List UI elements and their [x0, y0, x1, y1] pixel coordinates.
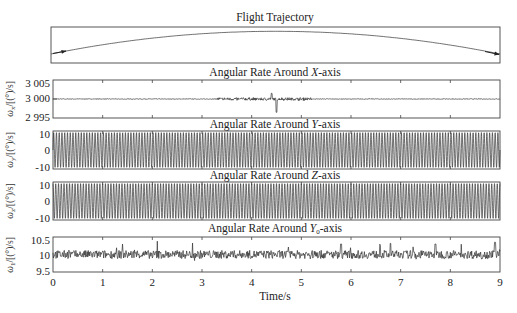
y-tick-mid: 0 — [45, 195, 51, 207]
trajectory-curve — [51, 31, 500, 54]
y-tick-top: 3 005 — [25, 77, 50, 89]
x-axis-ticks: 0123456789 — [50, 276, 503, 288]
y-tick-bottom: -10 — [35, 212, 50, 224]
y-axis-rate-line — [53, 133, 500, 168]
x-axis-title: Angular Rate Around X-axis — [209, 66, 341, 79]
y-tick-top: 10.5 — [31, 234, 51, 246]
y-tick-mid: 3 000 — [25, 92, 50, 104]
y-axis-ylabel: ωy/[(°)/s] — [5, 132, 17, 168]
svg-text:ωz/[(°)/s]: ωz/[(°)/s] — [5, 183, 17, 218]
z-axis-title: Angular Rate Around Z-axis — [210, 169, 341, 182]
x-tick-label: 5 — [299, 276, 305, 288]
arrow-left-icon — [53, 51, 66, 54]
z-axis-ylabel: ωz/[(°)/s] — [5, 183, 17, 218]
figure: Flight Trajectory Angular Rate Around X-… — [0, 0, 517, 313]
x-tick-label: 9 — [497, 276, 503, 288]
z-axis-rate-line — [53, 184, 500, 219]
y-tick-top: 10 — [39, 128, 51, 140]
y-tick-bottom: -10 — [35, 161, 50, 173]
x-tick-label: 0 — [50, 276, 56, 288]
y-axis-title: Angular Rate Around Y-axis — [210, 118, 341, 131]
trajectory-panel: Flight Trajectory — [51, 11, 500, 63]
x-axis-label: Time/s — [259, 290, 291, 302]
y-tick-bottom: 2 995 — [25, 111, 50, 123]
x-tick-label: 2 — [150, 276, 156, 288]
y0-axis-rate-line — [53, 241, 500, 260]
x-tick-label: 4 — [249, 276, 255, 288]
y0-axis-title: Angular Rate Around Y0-axis — [208, 222, 343, 236]
x-axis-ylabel: ωx/[(°)/s] — [5, 81, 17, 117]
y-axis-rate-panel: Angular Rate Around Y-axis 10 0 -10 ωy/[… — [5, 118, 500, 173]
svg-text:ω1/[(°)/s]: ω1/[(°)/s] — [5, 237, 17, 273]
x-axis-rate-line — [53, 93, 500, 112]
z-axis-rate-panel: Angular Rate Around Z-axis 10 0 -10 ωz/[… — [5, 169, 500, 224]
y-tick-bottom: 9.5 — [36, 265, 50, 277]
x-tick-label: 3 — [199, 276, 205, 288]
y0-axis-ylabel: ω1/[(°)/s] — [5, 237, 17, 273]
trajectory-title: Flight Trajectory — [236, 11, 314, 24]
svg-text:ωy/[(°)/s]: ωy/[(°)/s] — [5, 132, 17, 168]
y-tick-top: 10 — [39, 179, 51, 191]
x-axis-rate-panel: Angular Rate Around X-axis 3 005 3 000 2… — [5, 66, 500, 123]
x-tick-label: 6 — [348, 276, 354, 288]
x-tick-label: 8 — [448, 276, 454, 288]
trajectory-frame — [51, 27, 500, 63]
svg-text:ωx/[(°)/s]: ωx/[(°)/s] — [5, 81, 17, 117]
x-tick-label: 7 — [398, 276, 404, 288]
y-tick-mid: 10 — [39, 249, 51, 261]
x-tick-label: 1 — [100, 276, 106, 288]
y0-axis-rate-panel: Angular Rate Around Y0-axis 10.5 10 9.5 … — [5, 222, 500, 277]
y-tick-mid: 0 — [45, 144, 51, 156]
